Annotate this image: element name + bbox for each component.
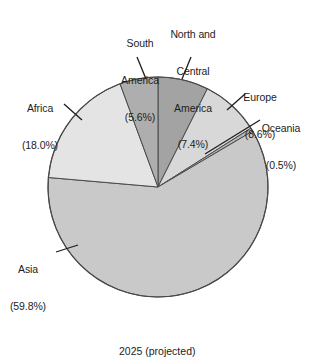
pie-label-asia: Asia (59.8%) (2, 239, 54, 337)
pie-label-north-central-america-percent: (7.4%) (160, 138, 226, 150)
pie-label-africa: Africa (18.0%) (10, 78, 70, 176)
pie-label-oceania-line1: Oceania (253, 122, 309, 134)
pie-label-africa-percent: (18.0%) (10, 139, 70, 151)
pie-label-africa-line1: Africa (10, 102, 70, 114)
chart-caption: 2025 (projected) world population 8,294,… (119, 319, 195, 364)
pie-label-north-central-america: North and Central America (7.4%) (160, 4, 226, 175)
pie-label-asia-percent: (59.8%) (2, 300, 54, 312)
pie-label-north-central-america-line2: Central (160, 65, 226, 77)
pie-label-asia-line1: Asia (2, 263, 54, 275)
pie-chart-figure: South America (5.6%) North and Central A… (0, 0, 313, 364)
pie-label-oceania: Oceania (0.5%) (253, 98, 309, 196)
pie-label-north-central-america-line3: America (160, 102, 226, 114)
pie-label-oceania-percent: (0.5%) (253, 159, 309, 171)
chart-caption-line1: 2025 (projected) (119, 345, 195, 358)
pie-label-north-central-america-line1: North and (160, 28, 226, 40)
